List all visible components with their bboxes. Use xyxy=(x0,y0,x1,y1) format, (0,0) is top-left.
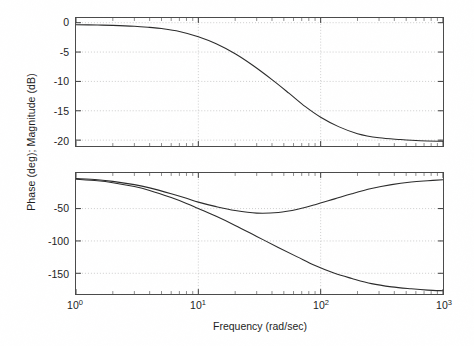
y-tick-label: 0 xyxy=(63,16,69,28)
x-axis-label: Frequency (rad/sec) xyxy=(75,320,445,332)
y-tick-label: -100 xyxy=(48,235,69,247)
y-tick-label: -20 xyxy=(54,135,69,147)
y-tick-label: -5 xyxy=(60,46,69,58)
bode-plot-figure: Phase (deg); Magnitude (dB) 0-5-10-15-20… xyxy=(0,0,474,346)
magnitude-axes xyxy=(75,17,444,147)
x-axis-tick-labels: 100101102103 xyxy=(75,299,444,315)
magnitude-plot-area xyxy=(76,18,443,146)
phase-plot-area xyxy=(76,173,443,294)
magnitude-y-tick-labels: 0-5-10-15-20 xyxy=(33,17,69,147)
data-curve xyxy=(76,179,443,291)
data-curve xyxy=(76,178,443,213)
x-tick-label: 100 xyxy=(67,299,83,311)
y-tick-label: -50 xyxy=(54,202,69,214)
y-tick-label: -10 xyxy=(54,75,69,87)
x-tick-label: 101 xyxy=(190,299,206,311)
y-tick-label: -15 xyxy=(54,105,69,117)
data-curve xyxy=(76,25,443,142)
y-tick-label: -150 xyxy=(48,268,69,280)
x-tick-label: 102 xyxy=(313,299,329,311)
x-tick-label: 103 xyxy=(436,299,452,311)
phase-axes xyxy=(75,172,444,295)
phase-y-tick-labels: -50-100-150 xyxy=(33,172,69,295)
